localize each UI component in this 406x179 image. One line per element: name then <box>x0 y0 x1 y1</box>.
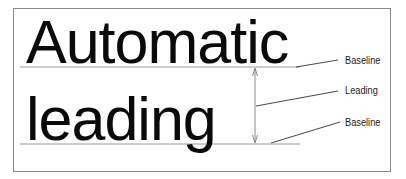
sample-text-line-2: leading <box>26 89 216 150</box>
leader-leading <box>256 91 338 106</box>
label-baseline-bottom: Baseline <box>345 117 380 128</box>
leader-baseline-top <box>296 60 338 67</box>
sample-text-line-1: Automatic <box>26 12 288 73</box>
label-leading: Leading <box>345 85 378 96</box>
label-baseline-top: Baseline <box>345 55 380 66</box>
leader-baseline-bottom <box>271 122 340 143</box>
